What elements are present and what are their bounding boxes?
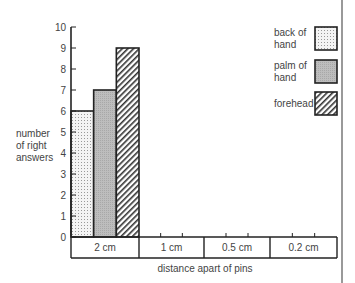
- legend: [315, 27, 337, 115]
- x-axis: 2 cm1 cm0.5 cm0.2 cm: [71, 233, 337, 258]
- legend-label-palm-of-hand: palm of hand: [274, 60, 307, 84]
- y-tick-label: 9: [60, 43, 66, 54]
- y-tick-label: 4: [60, 148, 66, 159]
- y-axis-label: number of right answers: [16, 128, 53, 164]
- x-category-label: 0.2 cm: [288, 242, 318, 253]
- y-tick-label: 1: [60, 211, 66, 222]
- x-category-label: 2 cm: [94, 242, 116, 253]
- legend-line: hand: [274, 39, 306, 51]
- y-tick-label: 5: [60, 127, 66, 138]
- y-label-line: of right: [16, 140, 53, 152]
- y-tick-label: 0: [60, 232, 66, 243]
- x-category-label: 0.5 cm: [222, 242, 252, 253]
- y-tick-label: 10: [55, 22, 67, 33]
- legend-line: palm of: [274, 60, 307, 72]
- legend-line: hand: [274, 72, 307, 84]
- y-tick-label: 3: [60, 169, 66, 180]
- y-tick-label: 7: [60, 85, 66, 96]
- legend-swatch-palm-of-hand: [315, 60, 337, 83]
- legend-label-forehead: forehead: [274, 98, 313, 110]
- legend-label-back-of-hand: back of hand: [274, 27, 306, 51]
- x-category-label: 1 cm: [161, 242, 183, 253]
- bars-group: [71, 48, 139, 237]
- legend-swatch-back-of-hand: [315, 27, 337, 50]
- y-tick-label: 2: [60, 190, 66, 201]
- y-tick-label: 6: [60, 106, 66, 117]
- y-label-line: answers: [16, 152, 53, 164]
- bar-palm-of-hand: [94, 90, 117, 237]
- y-label-line: number: [16, 128, 53, 140]
- legend-line: back of: [274, 27, 306, 39]
- legend-line: forehead: [274, 98, 313, 110]
- y-tick-label: 8: [60, 64, 66, 75]
- bar-forehead: [116, 48, 139, 237]
- x-axis-label: distance apart of pins: [0, 263, 355, 274]
- legend-swatch-forehead: [315, 92, 337, 115]
